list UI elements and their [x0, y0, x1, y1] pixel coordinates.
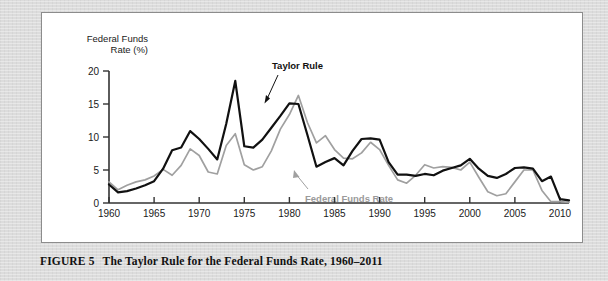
x-tick-label: 1970: [188, 208, 211, 219]
x-tick-label: 1965: [143, 208, 166, 219]
taylor-rule-leader-line: [267, 75, 278, 99]
taylor-rule-leader-arrowhead: [265, 95, 271, 104]
x-tick-label: 1975: [233, 208, 256, 219]
line-chart: 05101520 1960196519701975198019851990199…: [42, 13, 584, 244]
y-tick-label: 10: [88, 132, 100, 143]
federal-funds-rate-leader-arrowhead: [293, 170, 300, 178]
x-tick-label: 1960: [98, 208, 121, 219]
figure-caption: FIGURE 5The Taylor Rule for the Federal …: [40, 255, 383, 267]
y-tick-label: 15: [88, 99, 100, 110]
x-tick-label: 2005: [504, 208, 527, 219]
x-tick-label: 1990: [368, 208, 391, 219]
x-tick-label: 1985: [323, 208, 346, 219]
x-tick-label: 2010: [549, 208, 572, 219]
annotation-leaders: [265, 75, 309, 189]
figure-number: FIGURE 5: [40, 255, 95, 267]
x-tick-label: 1980: [278, 208, 301, 219]
y-axis-ticks: 05101520: [88, 66, 109, 209]
x-tick-label: 2000: [459, 208, 482, 219]
y-tick-label: 5: [93, 165, 99, 176]
figure-caption-text: The Taylor Rule for the Federal Funds Ra…: [103, 255, 383, 267]
figure-panel: Federal FundsRate (%) Taylor Rule Federa…: [41, 12, 583, 243]
y-tick-label: 0: [93, 198, 99, 209]
series-line-taylor-rule: [109, 81, 569, 200]
x-tick-label: 1995: [414, 208, 437, 219]
y-tick-label: 20: [88, 66, 100, 77]
x-axis-ticks: 1960196519701975198019851990199520002005…: [98, 197, 572, 219]
chart-series: [109, 81, 569, 202]
